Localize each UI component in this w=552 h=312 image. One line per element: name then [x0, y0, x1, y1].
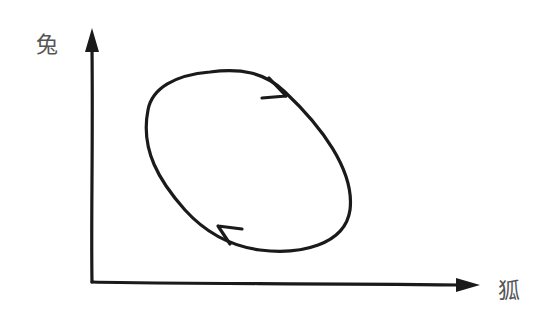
cycle-arrow-bottom-icon: [218, 226, 242, 244]
y-axis: [92, 48, 93, 282]
y-axis-arrow-icon: [85, 28, 99, 52]
y-axis-label: 兔: [36, 34, 58, 56]
x-axis-label: 狐: [498, 280, 520, 302]
phase-diagram: [0, 0, 552, 312]
cycle-loop: [146, 71, 350, 252]
x-axis: [92, 282, 460, 285]
x-axis-arrow-icon: [456, 278, 480, 292]
